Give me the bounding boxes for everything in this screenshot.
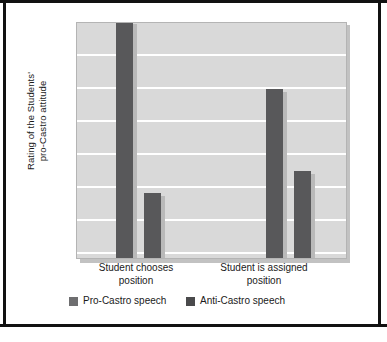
legend-swatch-icon-pro-castro — [69, 297, 78, 306]
y-axis-title: Rating of the Students' pro-Castro attit… — [25, 36, 55, 206]
bar-anti-castro-student-assigned — [294, 171, 311, 258]
legend-label-anti-castro: Anti-Castro speech — [200, 295, 285, 307]
bar-chart: Rating of the Students' pro-Castro attit… — [6, 6, 378, 321]
figure-container: Rating of the Students' pro-Castro attit… — [0, 0, 387, 342]
figure-border-bottom — [0, 324, 387, 327]
legend-item-anti-castro: Anti-Castro speech — [186, 294, 285, 308]
plot-area — [76, 22, 347, 259]
x-axis-label-student-assigned: Student is assigned position — [189, 262, 339, 287]
legend: Pro-Castro speech Anti-Castro speech — [66, 294, 326, 310]
bar-pro-castro-student-assigned — [266, 89, 283, 258]
legend-item-pro-castro: Pro-Castro speech — [69, 294, 166, 308]
figure-border-right — [378, 0, 381, 327]
legend-label-pro-castro: Pro-Castro speech — [83, 295, 166, 307]
legend-swatch-icon-anti-castro — [186, 297, 195, 306]
bar-anti-castro-student-chooses — [144, 193, 161, 258]
bar-pro-castro-student-chooses — [116, 23, 133, 258]
figure-caption — [6, 332, 381, 342]
